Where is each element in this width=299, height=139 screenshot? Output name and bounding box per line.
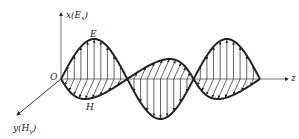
em-wave-diagram: x(Ex) y(Hy) z O E H bbox=[0, 0, 299, 139]
e-field-label: E bbox=[89, 29, 97, 39]
y-axis-label: y(Hy) bbox=[12, 123, 37, 135]
origin-label: O bbox=[50, 72, 58, 82]
x-axis-label: x(Ex) bbox=[66, 10, 89, 21]
h-field-label: H bbox=[85, 102, 94, 112]
z-axis-label: z bbox=[290, 73, 296, 83]
y-axis bbox=[17, 79, 61, 115]
